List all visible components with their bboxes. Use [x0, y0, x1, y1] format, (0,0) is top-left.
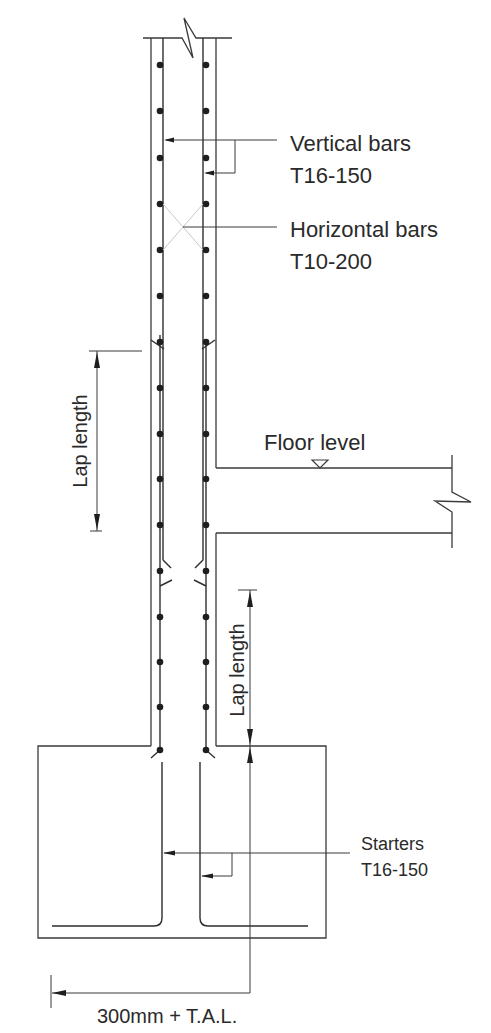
anchorage-label: 300mm + T.A.L.: [97, 1005, 237, 1027]
upper-vertical-bars: [163, 38, 203, 568]
floor-level-marker-icon: [312, 460, 328, 468]
starter-bars: [52, 762, 308, 926]
anchorage-dimension: [51, 746, 253, 1008]
upper-lap-dimension: [89, 351, 142, 531]
wall-top-break-line: [143, 18, 232, 58]
vertical-bars-label: Vertical bars: [290, 131, 411, 156]
wall-section-drawing: Vertical bars T16-150 Horizontal bars T1…: [0, 0, 491, 1033]
starters-label: Starters: [361, 834, 424, 854]
upper-lap-length-label: Lap length: [69, 394, 91, 487]
vertical-bars-spec: T16-150: [290, 163, 372, 188]
floor-level-label: Floor level: [264, 430, 365, 455]
lower-lap-length-label: Lap length: [226, 623, 248, 716]
floor-slab: [216, 455, 471, 548]
footing-outline: [38, 746, 326, 938]
horizontal-bars-spec: T10-200: [290, 249, 372, 274]
lower-vertical-bars: [151, 335, 215, 758]
horizontal-bars-label: Horizontal bars: [290, 217, 438, 242]
starters-spec: T16-150: [361, 860, 428, 880]
vertical-bars-leader: [164, 138, 277, 176]
horizontal-bar-dots: [157, 62, 210, 754]
starters-leader: [163, 851, 350, 879]
